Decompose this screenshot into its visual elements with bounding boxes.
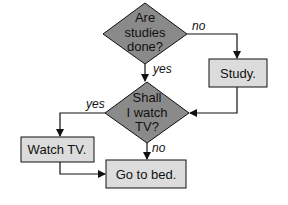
edge-watch-to-bed [60, 162, 105, 174]
edge-study-to-q2 [190, 87, 237, 113]
process-go-to-bed: Go to bed. [106, 160, 186, 188]
flowchart: no yes yes no Are studies done? Study. S… [0, 0, 288, 205]
edge-label-yes: yes [152, 62, 172, 76]
edge-label-no: no [152, 141, 166, 155]
decision-text-line: I watch [126, 105, 167, 120]
process-label: Study. [220, 66, 256, 81]
process-study: Study. [209, 59, 267, 87]
edge-label-no: no [192, 19, 206, 33]
process-label: Go to bed. [116, 167, 177, 182]
decision-text-line: studies [124, 25, 166, 40]
edge-q1-yes: yes [145, 62, 172, 81]
edge-q2-no: no [147, 141, 166, 159]
edge-q1-no: no [187, 19, 237, 58]
edge-label-yes: yes [85, 97, 105, 111]
decision-text-line: done? [127, 39, 163, 54]
edge-q2-yes: yes [60, 97, 105, 136]
decision-studies-done: Are studies done? [103, 3, 187, 64]
decision-text-line: Are [135, 10, 155, 25]
process-label: Watch TV. [28, 142, 87, 157]
decision-watch-tv: Shall I watch TV? [105, 82, 189, 143]
decision-text-line: Shall [133, 90, 162, 105]
process-watch-tv: Watch TV. [21, 137, 94, 162]
decision-text-line: TV? [135, 119, 159, 134]
